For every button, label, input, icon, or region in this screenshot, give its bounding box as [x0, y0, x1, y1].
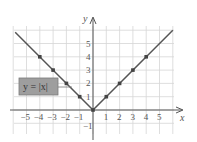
data-point: [65, 82, 69, 86]
svg-text:5: 5: [157, 112, 162, 122]
equation-text: y = |x|: [23, 81, 48, 92]
data-point: [118, 82, 122, 86]
data-point: [91, 108, 95, 112]
data-point: [51, 68, 55, 72]
data-point: [131, 68, 135, 72]
svg-text:4: 4: [86, 52, 91, 62]
svg-text:−4: −4: [34, 112, 44, 122]
data-point: [144, 55, 148, 59]
svg-text:−5: −5: [21, 112, 31, 122]
svg-text:3: 3: [86, 65, 91, 75]
svg-text:−1: −1: [83, 121, 93, 131]
data-point: [38, 55, 42, 59]
svg-text:1: 1: [86, 92, 91, 102]
svg-text:3: 3: [130, 112, 135, 122]
svg-text:2: 2: [86, 78, 91, 88]
svg-text:−3: −3: [47, 112, 57, 122]
svg-text:4: 4: [144, 112, 149, 122]
svg-text:−1: −1: [74, 112, 84, 122]
svg-text:1: 1: [104, 112, 109, 122]
absolute-value-graph: −5−4−3−2−112345−112345 y = |x| y x: [0, 0, 197, 142]
y-axis-label: y: [82, 13, 88, 24]
data-point: [78, 95, 82, 99]
svg-text:−2: −2: [60, 112, 70, 122]
data-point: [105, 95, 109, 99]
x-axis-label: x: [179, 112, 185, 123]
svg-text:5: 5: [86, 39, 91, 49]
svg-text:2: 2: [117, 112, 122, 122]
